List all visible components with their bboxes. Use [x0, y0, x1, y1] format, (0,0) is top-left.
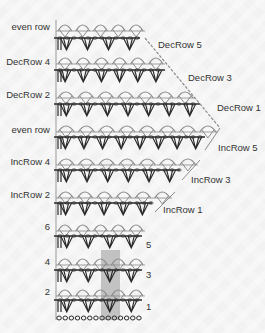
chart-row-arc — [56, 92, 195, 104]
chart-row-arc — [56, 58, 165, 70]
chart-row-dc — [54, 169, 181, 182]
row-label-left: DecRow 2 — [0, 90, 50, 100]
chart-row-dc — [54, 37, 140, 50]
row-label-left: 4 — [0, 257, 50, 267]
row-label-right: IncRow 1 — [163, 205, 203, 215]
row-label-left: 2 — [0, 287, 50, 297]
chart-row-dc — [54, 103, 200, 116]
row-label-left: IncRow 4 — [0, 157, 50, 167]
row-label-right: DecRow 3 — [188, 73, 232, 83]
row-label-right: IncRow 3 — [191, 175, 231, 185]
chart-row-dc — [54, 69, 165, 82]
row-label-right: IncRow 5 — [218, 143, 258, 153]
row-label-left: 6 — [0, 222, 50, 232]
chart-row-dc — [54, 235, 142, 248]
row-label-right: DecRow 5 — [158, 40, 202, 50]
chart-row-chain — [57, 316, 141, 320]
chart-row-dc — [54, 299, 142, 312]
row-label-left: even row — [0, 125, 50, 135]
row-label-right: DecRow 1 — [217, 103, 261, 113]
row-label-left: IncRow 2 — [0, 190, 50, 200]
row-label-right: 5 — [146, 240, 151, 250]
row-label-right: 3 — [146, 270, 151, 280]
chart-row-dc — [54, 202, 153, 215]
chart-row-dc — [54, 136, 205, 149]
chart-row-arc — [56, 25, 145, 37]
row-label-left: DecRow 4 — [0, 57, 50, 67]
chart-row-dc — [54, 269, 142, 282]
row-label-right: 1 — [146, 302, 151, 312]
row-label-left: even row — [0, 22, 50, 32]
